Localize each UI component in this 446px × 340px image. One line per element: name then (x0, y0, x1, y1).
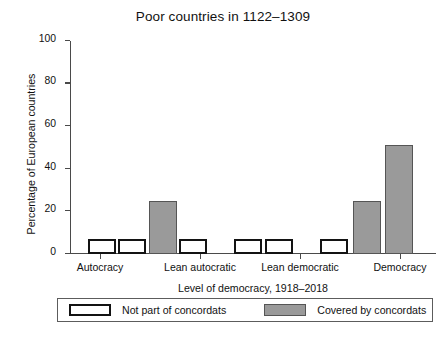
x-axis-category-label: Lean autocratic (164, 261, 236, 273)
bar (88, 239, 116, 254)
bar (320, 239, 348, 254)
x-axis-tick (400, 254, 401, 259)
y-axis-tick: 0 (65, 253, 70, 254)
x-axis-category-label: Autocracy (77, 261, 124, 273)
y-axis-line (70, 41, 71, 254)
bar (353, 201, 381, 254)
bar (118, 239, 146, 254)
y-axis-tick: 40 (65, 168, 70, 169)
x-axis-title: Level of democracy, 1918–2018 (70, 282, 436, 294)
legend-item-label: Not part of concordats (122, 304, 226, 316)
y-axis-tick-label: 40 (44, 161, 56, 172)
y-axis-tick-label: 20 (44, 203, 56, 214)
legend-swatch-icon (69, 304, 111, 316)
chart-legend: Not part of concordats Covered by concor… (57, 298, 433, 322)
bar (234, 239, 262, 254)
legend-item-not-part-of-concordats: Not part of concordats (69, 299, 226, 321)
chart-title: Poor countries in 1122–1309 (0, 9, 446, 24)
y-axis-tick: 80 (65, 82, 70, 83)
y-axis-tick: 60 (65, 125, 70, 126)
y-axis-tick-label: 80 (44, 75, 56, 86)
x-axis-tick (300, 254, 301, 259)
x-axis-tick (200, 254, 201, 259)
legend-item-label: Covered by concordats (317, 304, 426, 316)
y-axis-tick: 20 (65, 210, 70, 211)
bar (265, 239, 293, 254)
legend-swatch-icon (264, 304, 306, 316)
bar (179, 239, 207, 254)
legend-item-covered-by-concordats: Covered by concordats (264, 299, 426, 321)
x-axis-category-label: Democracy (373, 261, 426, 273)
y-axis-tick: 100 (65, 40, 70, 41)
y-axis-tick-label: 60 (44, 118, 56, 129)
y-axis-tick-label: 100 (39, 33, 56, 44)
x-axis-tick (100, 254, 101, 259)
y-axis-title: Percentage of European countries (25, 42, 37, 267)
bar (385, 145, 413, 254)
plot-area: 020406080100 (70, 41, 436, 254)
chart-figure: Poor countries in 1122–1309 Percentage o… (0, 0, 446, 340)
x-axis-category-label: Lean democratic (261, 261, 339, 273)
bar (149, 201, 177, 254)
y-axis-tick-label: 0 (50, 246, 56, 257)
